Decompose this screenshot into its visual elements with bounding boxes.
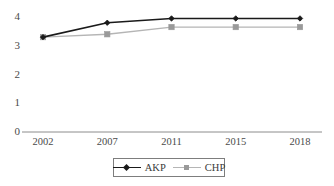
legend-label-akp: AKP <box>145 162 166 174</box>
data-point-chp-2007 <box>105 32 110 37</box>
y-tick-label-1: 1 <box>6 97 20 108</box>
x-tick-label-2018: 2018 <box>290 136 311 148</box>
data-point-chp-2015 <box>233 24 238 29</box>
legend-entry-chp[interactable]: CHP <box>173 159 225 176</box>
legend-swatch-chp <box>173 162 201 173</box>
series-chp <box>40 24 302 39</box>
legend-entry-akp[interactable]: AKP <box>113 159 166 176</box>
x-tick-label-2002: 2002 <box>33 136 54 148</box>
legend-swatch-akp <box>113 162 141 173</box>
legend-marker-chp <box>184 165 189 170</box>
y-tick-label-4: 4 <box>6 11 20 22</box>
data-point-akp-2015 <box>233 16 238 21</box>
data-point-chp-2018 <box>297 24 302 29</box>
y-tick-label-3: 3 <box>6 40 20 51</box>
x-tick-label-2011: 2011 <box>161 136 182 148</box>
y-tick-label-2: 2 <box>6 69 20 80</box>
x-axis-tick-labels: 20022007201120152018 <box>0 136 334 152</box>
legend-marker-akp <box>123 164 130 171</box>
line-chart: 01234 20022007201120152018 AKPCHP <box>0 0 334 186</box>
chart-legend: AKPCHP <box>113 158 225 177</box>
data-point-akp-2018 <box>297 16 302 21</box>
data-point-akp-2007 <box>105 20 110 25</box>
data-point-akp-2011 <box>169 16 174 21</box>
y-axis-tick-labels: 01234 <box>4 0 20 186</box>
data-point-chp-2011 <box>169 24 174 29</box>
x-tick-label-2015: 2015 <box>225 136 246 148</box>
legend-label-chp: CHP <box>205 162 225 174</box>
x-tick-label-2007: 2007 <box>97 136 118 148</box>
